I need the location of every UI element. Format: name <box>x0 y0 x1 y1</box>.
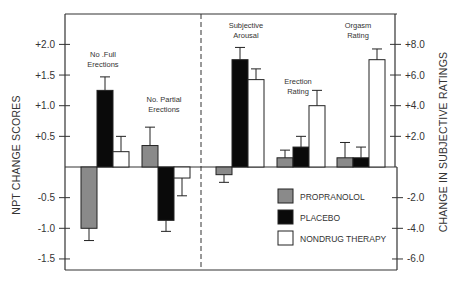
category-label: Erections <box>148 105 180 114</box>
bar-nondrug-therapy <box>309 106 325 167</box>
bar-nondrug-therapy <box>369 60 385 167</box>
right-tick-label: +2.0 <box>405 131 425 142</box>
left-tick-label: +0.5 <box>35 131 55 142</box>
bar-nondrug-therapy <box>174 167 190 178</box>
left-tick-label: +1.0 <box>35 100 55 111</box>
category-label: No. Partial <box>146 95 181 104</box>
right-tick-label: -2.0 <box>407 192 425 203</box>
right-tick-label: -6.0 <box>407 253 425 264</box>
right-tick-label: +4.0 <box>405 100 425 111</box>
legend-swatch <box>278 231 293 245</box>
legend-label: PLACEBO <box>300 213 341 223</box>
bar-placebo <box>293 147 309 167</box>
left-axis-title: NPT CHANGE SCORES <box>10 95 22 214</box>
left-tick-label: +1.5 <box>35 70 55 81</box>
legend-label: NONDRUG THERAPY <box>300 234 387 244</box>
bar-propranolol <box>216 167 232 175</box>
category-label: Orgasm <box>345 21 372 30</box>
legend-swatch <box>278 189 293 203</box>
bar-propranolol <box>81 167 97 228</box>
right-axis-title: CHANGE IN SUBJECTIVE RATINGS <box>437 52 449 232</box>
category-label: Rating <box>347 31 369 40</box>
legend-swatch <box>278 210 293 224</box>
bar-nondrug-therapy <box>113 152 129 167</box>
right-tick-label: -4.0 <box>407 223 425 234</box>
bar-chart: +2.0+1.5+1.0+0.5-0.5-1.0-1.5 +8.0+6.0+4.… <box>0 0 459 282</box>
bar-placebo <box>158 167 174 220</box>
category-label: Erection <box>284 77 312 86</box>
legend-label: PROPRANOLOL <box>300 192 365 202</box>
bar-propranolol <box>142 146 158 167</box>
bar-placebo <box>232 60 248 167</box>
category-label: No .Full <box>90 50 116 59</box>
bar-nondrug-therapy <box>248 80 264 167</box>
bar-propranolol <box>337 158 353 167</box>
category-label: Rating <box>287 87 309 96</box>
bar-propranolol <box>277 158 293 167</box>
right-tick-label: +6.0 <box>405 70 425 81</box>
left-tick-label: -0.5 <box>38 192 56 203</box>
category-labels: No .FullErectionsNo. PartialErectionsSub… <box>87 21 371 114</box>
left-tick-label: -1.0 <box>38 223 56 234</box>
category-label: Subjective <box>229 21 264 30</box>
right-tick-label: +8.0 <box>405 39 425 50</box>
left-tick-label: -1.5 <box>38 253 56 264</box>
bar-placebo <box>353 158 369 167</box>
left-tick-label: +2.0 <box>35 39 55 50</box>
category-label: Arousal <box>233 31 259 40</box>
legend: PROPRANOLOLPLACEBONONDRUG THERAPY <box>278 189 387 245</box>
category-label: Erections <box>87 60 119 69</box>
bar-placebo <box>97 90 113 167</box>
